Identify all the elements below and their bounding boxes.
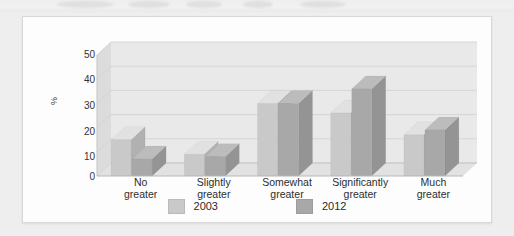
- legend-label-2012: 2012: [322, 200, 346, 212]
- chart-card: % 50 40 30 20 10 0 NogreaterSlightlygrea…: [22, 16, 492, 223]
- legend-label-2003: 2003: [194, 200, 218, 212]
- chart-legend: 2003 2012: [23, 195, 491, 217]
- legend-item-2003[interactable]: 2003: [168, 199, 218, 214]
- legend-item-2012[interactable]: 2012: [296, 199, 346, 214]
- bar-chart-svg: [23, 17, 491, 189]
- legend-swatch-2012: [296, 199, 313, 214]
- legend-swatch-2003: [168, 199, 185, 214]
- scan-artifact-strip: [0, 0, 514, 12]
- x-axis-label-line: Much: [388, 176, 478, 188]
- plot-area: % 50 40 30 20 10 0: [23, 17, 491, 189]
- page-background: % 50 40 30 20 10 0 NogreaterSlightlygrea…: [0, 12, 514, 236]
